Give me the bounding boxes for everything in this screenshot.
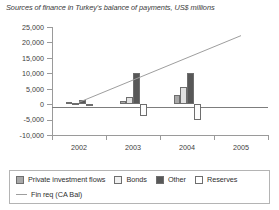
y-axis-label: 10,000 (0, 69, 44, 78)
x-axis-tick (106, 135, 107, 140)
legend-item-bonds[interactable]: Bonds (114, 175, 146, 184)
y-axis-label: 5,000 (0, 85, 44, 94)
y-axis-label: -5,000 (0, 115, 44, 124)
x-axis-label: 2005 (218, 143, 264, 152)
y-axis-label: 20,000 (0, 38, 44, 47)
chart-legend: Private investment flows Bonds Other Res… (9, 170, 270, 204)
x-axis-tick (160, 135, 161, 140)
legend-swatch-reserves-icon (195, 176, 203, 184)
legend-swatch-private-icon (16, 176, 24, 184)
x-axis-label: 2004 (164, 143, 210, 152)
legend-label-fin-req: Fin req (CA Bal) (31, 190, 82, 199)
y-axis-label: 15,000 (0, 54, 44, 63)
legend-label-private: Private investment flows (28, 175, 105, 184)
legend-line-marker-icon (16, 194, 27, 195)
x-axis-label: 2003 (110, 143, 156, 152)
x-axis-tick (214, 135, 215, 140)
legend-item-reserves[interactable]: Reserves (195, 175, 237, 184)
y-axis-label: 25,000 (0, 23, 44, 32)
legend-item-private-investment-flows[interactable]: Private investment flows (16, 175, 105, 184)
legend-label-bonds: Bonds (126, 175, 146, 184)
chart-title: Sources of finance in Turkey's balance o… (6, 3, 215, 12)
x-axis-tick (52, 135, 53, 140)
chart-container: Sources of finance in Turkey's balance o… (0, 0, 279, 210)
y-axis-label: -10,000 (0, 131, 44, 140)
x-axis-tick (268, 135, 269, 140)
y-axis-label: 0 (0, 100, 44, 109)
legend-swatch-other-icon (156, 176, 164, 184)
fin-req-line (52, 27, 268, 135)
legend-row-secondary: Fin req (CA Bal) (16, 190, 91, 199)
x-axis-label: 2002 (56, 143, 102, 152)
legend-row-primary: Private investment flows Bonds Other Res… (16, 175, 246, 184)
legend-swatch-bonds-icon (114, 176, 122, 184)
legend-item-fin-req[interactable]: Fin req (CA Bal) (16, 190, 82, 199)
legend-label-reserves: Reserves (207, 175, 237, 184)
legend-item-other[interactable]: Other (156, 175, 186, 184)
legend-label-other: Other (168, 175, 186, 184)
